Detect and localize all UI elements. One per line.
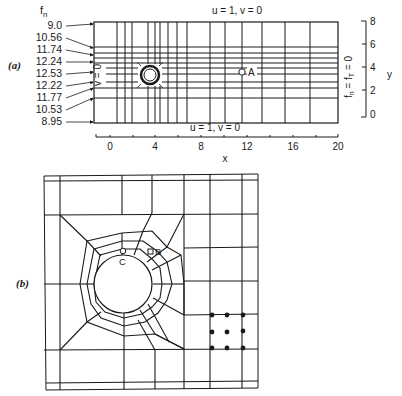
point-b-marker bbox=[148, 249, 153, 254]
x-tick-label: 8 bbox=[198, 141, 204, 152]
x-axis bbox=[96, 134, 338, 137]
fn-value: 12.53 bbox=[36, 67, 62, 79]
x-axis-label: x bbox=[223, 153, 228, 164]
gauss-point bbox=[210, 330, 215, 335]
point-a-label: A bbox=[248, 67, 255, 78]
point-a-marker bbox=[239, 69, 245, 75]
y-axis-label: y bbox=[387, 69, 392, 80]
y-tick-label: 2 bbox=[370, 85, 376, 96]
x-tick-label: 12 bbox=[241, 141, 253, 152]
x-tick-label: 16 bbox=[287, 141, 299, 152]
bottom-boundary-condition: u = 1, v = 0 bbox=[190, 122, 240, 133]
top-boundary-condition: u = 1, v = 0 bbox=[212, 5, 262, 16]
fn-leader-arrows bbox=[66, 24, 93, 122]
gauss-point bbox=[210, 346, 215, 351]
finite-difference-grid bbox=[94, 22, 338, 123]
point-c-marker bbox=[120, 248, 126, 254]
right-boundary-condition: fn = fT = 0 bbox=[343, 55, 355, 98]
gauss-point bbox=[241, 346, 246, 351]
gauss-point bbox=[210, 313, 215, 318]
gauss-point bbox=[225, 330, 230, 335]
left-boundary-condition: v = 0 bbox=[92, 64, 103, 86]
fn-value: 10.56 bbox=[36, 31, 62, 43]
fn-value: 11.77 bbox=[37, 91, 63, 103]
y-tick-label: 8 bbox=[370, 16, 376, 27]
fn-value: 12.24 bbox=[36, 55, 62, 67]
y-tick-label: 4 bbox=[370, 62, 376, 73]
x-tick-label: 4 bbox=[152, 141, 158, 152]
x-tick-label: 20 bbox=[332, 141, 344, 152]
fn-value: 8.95 bbox=[42, 115, 63, 127]
point-b-label: B bbox=[155, 246, 161, 257]
x-tick-label: 0 bbox=[107, 141, 113, 152]
figure-a-label: (a) bbox=[8, 59, 21, 72]
y-tick-label: 6 bbox=[370, 39, 376, 50]
gauss-point bbox=[241, 313, 246, 318]
y-axis bbox=[361, 21, 366, 117]
fn-values: 9.0 10.56 11.74 12.24 12.53 12.22 11.77 … bbox=[36, 19, 62, 127]
fn-value: 11.74 bbox=[37, 43, 63, 55]
hole-marker bbox=[137, 62, 163, 88]
y-tick-label: 0 bbox=[370, 109, 376, 120]
gauss-points bbox=[210, 313, 246, 351]
fn-value: 12.22 bbox=[36, 79, 62, 91]
fn-value: 10.53 bbox=[36, 103, 62, 115]
fn-value: 9.0 bbox=[47, 19, 62, 31]
gauss-point bbox=[225, 346, 230, 351]
figure-b-label: (b) bbox=[16, 277, 29, 290]
gauss-point bbox=[225, 313, 230, 318]
gauss-point bbox=[241, 329, 246, 334]
figure-canvas: (a) fn 9.0 10.56 11.74 12.24 12.53 12.22… bbox=[0, 0, 402, 396]
point-c-label: C bbox=[119, 256, 126, 267]
figure-b: (b) bbox=[16, 174, 258, 390]
figure-a: (a) fn 9.0 10.56 11.74 12.24 12.53 12.22… bbox=[8, 4, 392, 164]
fn-header: fn bbox=[40, 4, 48, 19]
